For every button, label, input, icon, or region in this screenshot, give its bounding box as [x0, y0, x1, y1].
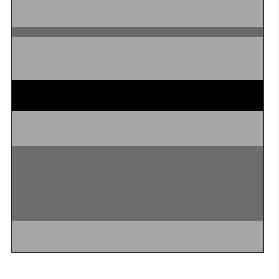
right-edge-line [278, 0, 279, 279]
light-band-3 [12, 111, 263, 146]
light-band-1 [12, 0, 263, 27]
dark-band [12, 146, 263, 221]
striped-swatch [11, 0, 264, 253]
light-band-2 [12, 37, 263, 80]
dark-stripe [12, 27, 263, 37]
light-band-4 [12, 221, 263, 252]
black-band [12, 80, 263, 111]
